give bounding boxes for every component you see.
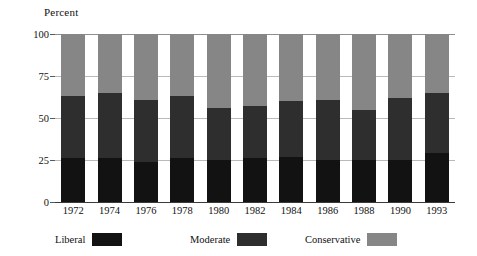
- legend-label-moderate: Moderate: [190, 234, 230, 245]
- bar-segment-moderate-1993: [425, 93, 449, 153]
- legend-label-conservative: Conservative: [305, 234, 360, 245]
- bar-segment-moderate-1976: [134, 100, 158, 162]
- bar-1982: [243, 34, 267, 202]
- x-tick-label-1990: 1990: [390, 205, 411, 216]
- bar-segment-moderate-1978: [170, 96, 194, 158]
- bar-segment-moderate-1990: [388, 98, 412, 160]
- x-tick-label-1984: 1984: [281, 205, 302, 216]
- bar-segment-moderate-1980: [207, 108, 231, 160]
- bar-segment-moderate-1982: [243, 106, 267, 158]
- y-tick-label-25: 25: [39, 155, 50, 166]
- bar-segment-liberal-1986: [316, 160, 340, 202]
- bar-segment-liberal-1972: [61, 158, 85, 202]
- y-tick-label-100: 100: [33, 29, 49, 40]
- bar-segment-conservative-1993: [425, 34, 449, 93]
- legend-swatch-conservative: [367, 233, 397, 246]
- x-tick-label-1986: 1986: [317, 205, 338, 216]
- bar-segment-moderate-1988: [352, 110, 376, 160]
- bar-segment-liberal-1984: [279, 157, 303, 202]
- bar-1978: [170, 34, 194, 202]
- x-tick-label-1976: 1976: [135, 205, 156, 216]
- bar-1993: [425, 34, 449, 202]
- bar-1984: [279, 34, 303, 202]
- legend-swatch-liberal: [92, 233, 122, 246]
- bar-segment-liberal-1980: [207, 160, 231, 202]
- bar-segment-conservative-1972: [61, 34, 85, 96]
- x-tick-label-1993: 1993: [426, 205, 447, 216]
- bar-segment-liberal-1974: [98, 158, 122, 202]
- bar-segment-conservative-1982: [243, 34, 267, 106]
- stacked-bar-chart: Percent 0255075100 197219741976197819801…: [0, 0, 477, 256]
- bar-segment-conservative-1974: [98, 34, 122, 93]
- bar-segment-conservative-1988: [352, 34, 376, 110]
- bar-1972: [61, 34, 85, 202]
- bar-segment-liberal-1988: [352, 160, 376, 202]
- gridline-0: [55, 202, 455, 203]
- legend-item-moderate: Moderate: [190, 232, 267, 246]
- bar-segment-liberal-1976: [134, 162, 158, 202]
- bar-segment-conservative-1978: [170, 34, 194, 96]
- bar-segment-conservative-1984: [279, 34, 303, 101]
- legend-swatch-moderate: [237, 233, 267, 246]
- bar-segment-conservative-1980: [207, 34, 231, 108]
- bar-segment-liberal-1978: [170, 158, 194, 202]
- bar-1990: [388, 34, 412, 202]
- bar-segment-moderate-1972: [61, 96, 85, 158]
- x-tick-label-1982: 1982: [245, 205, 266, 216]
- bar-segment-liberal-1982: [243, 158, 267, 202]
- legend-item-conservative: Conservative: [305, 232, 397, 246]
- bar-segment-conservative-1986: [316, 34, 340, 100]
- bar-1988: [352, 34, 376, 202]
- bar-segment-moderate-1974: [98, 93, 122, 159]
- x-tick-label-1988: 1988: [354, 205, 375, 216]
- legend-item-liberal: Liberal: [55, 232, 122, 246]
- x-axis-labels: 1972197419761978198019821984198619881990…: [55, 205, 455, 223]
- y-axis-title: Percent: [44, 6, 78, 18]
- y-tick-mark-0: [50, 202, 55, 203]
- x-tick-label-1978: 1978: [172, 205, 193, 216]
- bar-segment-liberal-1990: [388, 160, 412, 202]
- bar-segment-moderate-1984: [279, 101, 303, 156]
- bar-segment-conservative-1976: [134, 34, 158, 100]
- x-tick-label-1974: 1974: [99, 205, 120, 216]
- plot-area: 0255075100: [55, 34, 455, 202]
- bar-1986: [316, 34, 340, 202]
- chart-legend: LiberalModerateConservative: [55, 232, 445, 250]
- bar-segment-liberal-1993: [425, 153, 449, 202]
- bar-1980: [207, 34, 231, 202]
- x-tick-label-1980: 1980: [208, 205, 229, 216]
- y-tick-label-0: 0: [44, 197, 49, 208]
- bar-segment-conservative-1990: [388, 34, 412, 98]
- legend-label-liberal: Liberal: [55, 234, 85, 245]
- y-tick-label-50: 50: [39, 113, 50, 124]
- bar-1976: [134, 34, 158, 202]
- y-tick-label-75: 75: [39, 71, 50, 82]
- x-tick-label-1972: 1972: [63, 205, 84, 216]
- bar-segment-moderate-1986: [316, 100, 340, 160]
- bar-1974: [98, 34, 122, 202]
- bar-group: [55, 34, 455, 202]
